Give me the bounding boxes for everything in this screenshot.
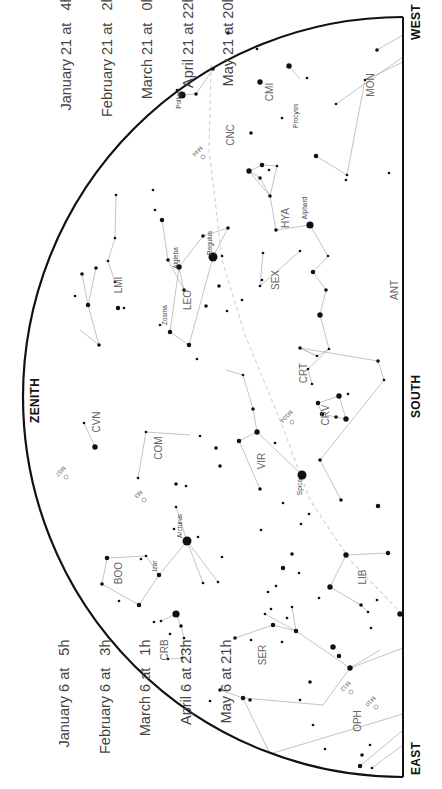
constellation-label-sex: SEX [270, 270, 281, 290]
constellation-label-lmi: LMI [113, 277, 124, 294]
star [330, 644, 335, 649]
dso-marker [142, 498, 146, 502]
star [306, 77, 309, 80]
star [299, 250, 302, 253]
date-row: March 6 at 1h [139, 640, 153, 754]
date-row: March 21 at 0h [141, 0, 155, 117]
constellation-line [346, 553, 388, 555]
star [375, 48, 379, 52]
constellation-label-cnc: CNC [225, 124, 236, 146]
star [153, 621, 156, 624]
star [118, 600, 121, 603]
star [281, 566, 286, 571]
star [261, 279, 264, 282]
star [97, 343, 101, 347]
star [249, 131, 253, 135]
star [100, 582, 104, 586]
star [308, 680, 312, 684]
star [262, 252, 265, 255]
star [250, 639, 253, 642]
constellation-label-leo: LEO [182, 290, 193, 310]
star [271, 623, 276, 628]
star [168, 330, 173, 335]
constellation-line [249, 171, 328, 315]
star [160, 218, 165, 223]
star [92, 444, 97, 449]
constellation-line [80, 330, 99, 345]
star [311, 383, 314, 386]
dso-marker [349, 690, 353, 694]
star [345, 179, 348, 182]
star [337, 654, 342, 659]
star-label-procyon: Procyon [292, 104, 300, 128]
star-label-algieba: Algieba [172, 247, 180, 269]
constellation-line [350, 648, 403, 668]
star-label-arcturus: Arcturus [176, 513, 183, 538]
star [226, 310, 229, 313]
star [86, 303, 91, 308]
star [260, 163, 265, 168]
star [376, 599, 379, 602]
star [197, 536, 200, 539]
star [388, 172, 391, 175]
star [264, 613, 267, 616]
dso-marker [64, 475, 68, 479]
star [371, 767, 374, 770]
constellation-line [300, 348, 378, 361]
star [140, 558, 143, 561]
star [346, 174, 349, 177]
star [154, 209, 157, 212]
dso-label-m3: M3 [133, 489, 144, 500]
constellation-label-ser: SER [257, 645, 268, 666]
constellation-line [235, 625, 273, 638]
date-row: May 21 at 20h [222, 0, 236, 117]
constellation-line [146, 432, 190, 435]
constellation-label-cvn: CVN [91, 411, 102, 432]
star [217, 581, 220, 584]
star [298, 471, 307, 480]
constellation-line [320, 361, 384, 500]
star [274, 442, 277, 445]
star [358, 764, 363, 769]
dso-marker [374, 705, 378, 709]
direction-zenith: ZENITH [28, 378, 42, 423]
star [275, 585, 278, 588]
constellation-line [320, 315, 329, 349]
constellation-line [138, 432, 146, 478]
constellation-line [316, 156, 347, 175]
star [299, 699, 302, 702]
star [152, 189, 155, 192]
star [324, 288, 328, 292]
constellation-line [265, 614, 296, 631]
constellation-line [187, 541, 203, 583]
date-row: February 21 at 2h [101, 0, 115, 117]
star [83, 422, 86, 425]
star [183, 537, 192, 546]
constellation-label-hya: HYA [280, 208, 291, 228]
star [116, 306, 121, 311]
constellation-label-oph: OPH [352, 710, 363, 732]
star [335, 103, 338, 106]
star [281, 117, 284, 120]
constellation-label-boo: BOO [113, 562, 124, 584]
star [312, 724, 315, 727]
star [169, 633, 172, 636]
star [241, 299, 244, 302]
star [316, 355, 319, 358]
star [282, 502, 285, 505]
constellation-line [270, 714, 403, 754]
star [359, 603, 363, 607]
star [291, 606, 294, 609]
star [123, 307, 126, 310]
star [185, 485, 188, 488]
star [226, 226, 230, 230]
star [328, 348, 331, 351]
star [367, 611, 370, 614]
star [114, 237, 117, 240]
constellation-label-lib: LIB [357, 569, 368, 584]
star [276, 165, 279, 168]
date-row: April 21 at 22h [182, 0, 196, 117]
dso-label-m104: M104 [279, 409, 294, 424]
star [274, 228, 278, 232]
star [175, 506, 178, 509]
